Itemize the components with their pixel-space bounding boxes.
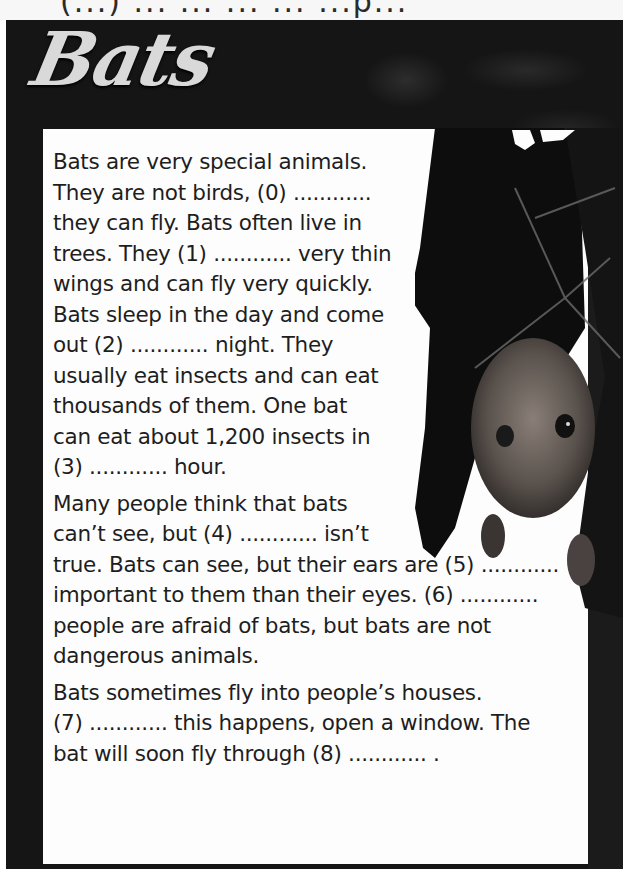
- paragraph-3: Bats sometimes fly into people’s houses.…: [53, 678, 559, 770]
- text-line: dangerous animals.: [53, 641, 559, 672]
- text-line-gap-7: (7) ............ this happens, open a wi…: [53, 708, 559, 739]
- text-line-gap-1: trees. They (1) ............ very thin: [53, 239, 559, 270]
- text-line: they can fly. Bats often live in: [53, 208, 559, 239]
- text-line: Bats sometimes fly into people’s houses.: [53, 678, 559, 709]
- text-line-gap-5: true. Bats can see, but their ears are (…: [53, 550, 559, 581]
- text-line-gap-6: important to them than their eyes. (6) .…: [53, 580, 559, 611]
- text-line: usually eat insects and can eat: [53, 361, 559, 392]
- text-line: thousands of them. One bat: [53, 391, 559, 422]
- article-body: Bats are very special animals. They are …: [53, 147, 559, 769]
- text-line-gap-2: out (2) ............ night. They: [53, 330, 559, 361]
- text-line-gap-8: bat will soon fly through (8) ..........…: [53, 739, 559, 770]
- text-line-gap-3: (3) ............ hour.: [53, 452, 559, 483]
- paragraph-1: Bats are very special animals. They are …: [53, 147, 559, 483]
- text-line-gap-4: can’t see, but (4) ............ isn’t: [53, 519, 559, 550]
- text-line: people are afraid of bats, but bats are …: [53, 611, 559, 642]
- article-title: Bats: [26, 22, 220, 96]
- text-line: Many people think that bats: [53, 489, 559, 520]
- text-line: Bats are very special animals.: [53, 147, 559, 178]
- text-line-gap-0: They are not birds, (0) ............: [53, 178, 559, 209]
- text-line: wings and can fly very quickly.: [53, 269, 559, 300]
- text-line: can eat about 1,200 insects in: [53, 422, 559, 453]
- paragraph-2: Many people think that bats can’t see, b…: [53, 489, 559, 672]
- text-line: Bats sleep in the day and come: [53, 300, 559, 331]
